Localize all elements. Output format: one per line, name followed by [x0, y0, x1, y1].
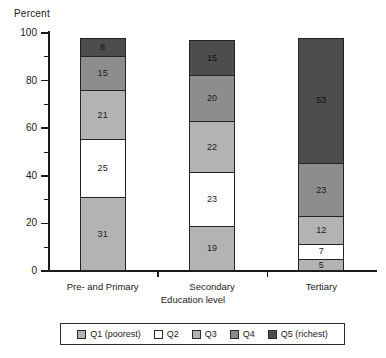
bar-segment: 25 [80, 139, 126, 199]
bar-segment: 15 [80, 56, 126, 92]
legend-label: Q4 [243, 330, 255, 339]
x-tick-label: Secondary [189, 281, 234, 292]
bar-segment: 23 [298, 163, 344, 218]
bar-segment-value: 23 [207, 195, 217, 204]
bar-segment-value: 23 [316, 186, 326, 195]
legend-item: Q2 [154, 330, 179, 339]
y-tick-major [41, 32, 48, 34]
legend-label: Q2 [167, 330, 179, 339]
bar-segment: 19 [189, 226, 235, 271]
legend-item: Q3 [192, 330, 217, 339]
bar-segment-value: 20 [207, 94, 217, 103]
bar-segment: 12 [298, 216, 344, 245]
y-tick-major [41, 80, 48, 82]
bar-segment-value: 12 [316, 226, 326, 235]
bar-secondary: 1923222015 [189, 33, 235, 271]
bar-tertiary: 57122353 [298, 33, 344, 271]
legend-swatch-icon [230, 330, 239, 339]
y-axis-title: Percent [14, 8, 50, 19]
y-tick-major [41, 223, 48, 225]
bar-segment: 15 [189, 40, 235, 76]
x-tick-label: Pre- and Primary [67, 281, 139, 292]
bar-segment: 7 [298, 244, 344, 261]
bar-segment-value: 19 [207, 244, 217, 253]
bar-segment: 20 [189, 75, 235, 123]
bar-pre-and-primary: 312521158 [80, 33, 126, 271]
y-tick-major [41, 127, 48, 129]
legend-label: Q3 [205, 330, 217, 339]
y-tick-label: 20 [9, 218, 37, 228]
legend-swatch-icon [77, 330, 86, 339]
y-tick-label: 40 [9, 171, 37, 181]
y-tick-label: 80 [9, 76, 37, 86]
y-tick-label: 0 [9, 266, 37, 276]
bar-segment-value: 8 [100, 43, 105, 52]
bar-segment: 31 [80, 197, 126, 271]
plot-area: 312521158192322201557122353 [48, 33, 376, 271]
x-tick [157, 271, 159, 277]
x-tick [267, 271, 269, 277]
chart-legend: Q1 (poorest)Q2Q3Q4Q5 (richest) [60, 323, 345, 345]
y-tick-major [41, 175, 48, 177]
y-tick-label: 100 [9, 28, 37, 38]
legend-item: Q1 (poorest) [77, 330, 141, 339]
bar-segment-value: 25 [98, 164, 108, 173]
legend-swatch-icon [192, 330, 201, 339]
bar-segment: 22 [189, 121, 235, 173]
legend-item: Q4 [230, 330, 255, 339]
x-tick-label: Tertiary [306, 281, 337, 292]
bar-segment-value: 5 [319, 261, 324, 270]
bar-segment-value: 7 [319, 247, 324, 256]
stacked-bar-chart: Percent 020406080100 3125211581923222015… [0, 0, 386, 358]
y-tick-label: 60 [9, 123, 37, 133]
legend-label: Q5 (richest) [281, 330, 328, 339]
bar-segment: 21 [80, 90, 126, 140]
y-tick-major [41, 270, 48, 272]
legend-label: Q1 (poorest) [90, 330, 141, 339]
bar-segment-value: 31 [98, 230, 108, 239]
bar-segment-value: 22 [207, 143, 217, 152]
bar-segment-value: 15 [98, 69, 108, 78]
bar-segment: 5 [298, 259, 344, 271]
legend-item: Q5 (richest) [268, 330, 328, 339]
bar-segment-value: 21 [98, 111, 108, 120]
legend-swatch-icon [154, 330, 163, 339]
bar-segment-value: 53 [316, 96, 326, 105]
bar-segment: 53 [298, 38, 344, 164]
x-axis-title: Education level [0, 294, 386, 305]
bar-segment-value: 15 [207, 54, 217, 63]
bar-segment: 23 [189, 172, 235, 227]
bar-segment: 8 [80, 38, 126, 57]
legend-swatch-icon [268, 330, 277, 339]
